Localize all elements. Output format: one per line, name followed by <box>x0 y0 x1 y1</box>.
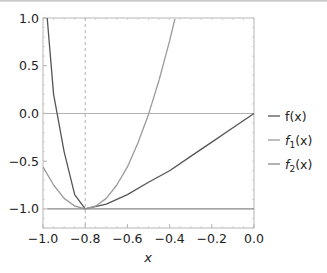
legend-item-label: f2(x) <box>285 157 312 174</box>
x-tick-label: −0.4 <box>154 231 184 246</box>
x-tick-label: −0.8 <box>70 231 100 246</box>
plot-frame <box>43 18 254 228</box>
x-tick-label: −0.2 <box>197 231 227 246</box>
legend-item-label: f(x) <box>285 109 307 124</box>
y-tick-label: 1.0 <box>19 11 39 26</box>
x-tick-label: 0.0 <box>244 231 264 246</box>
x-tick-label: −1.0 <box>28 231 58 246</box>
legend: f(x)f1(x)f2(x) <box>268 109 312 174</box>
y-tick-label: 0.5 <box>19 58 39 73</box>
y-tick-label: −1.0 <box>9 201 39 216</box>
x-axis-label: x <box>143 250 152 265</box>
x-axis-ticks: −1.0−0.8−0.6−0.4−0.20.0 <box>28 224 264 246</box>
y-tick-label: −0.5 <box>9 154 39 169</box>
y-axis-ticks: 1.00.50.0−0.5−1.0 <box>9 11 47 217</box>
reference-lines <box>43 18 254 228</box>
x-tick-label: −0.6 <box>112 231 142 246</box>
line-chart: −1.0−0.8−0.6−0.4−0.20.0 1.00.50.0−0.5−1.… <box>0 0 327 273</box>
legend-item-label: f1(x) <box>285 133 312 150</box>
y-tick-label: 0.0 <box>19 106 39 121</box>
